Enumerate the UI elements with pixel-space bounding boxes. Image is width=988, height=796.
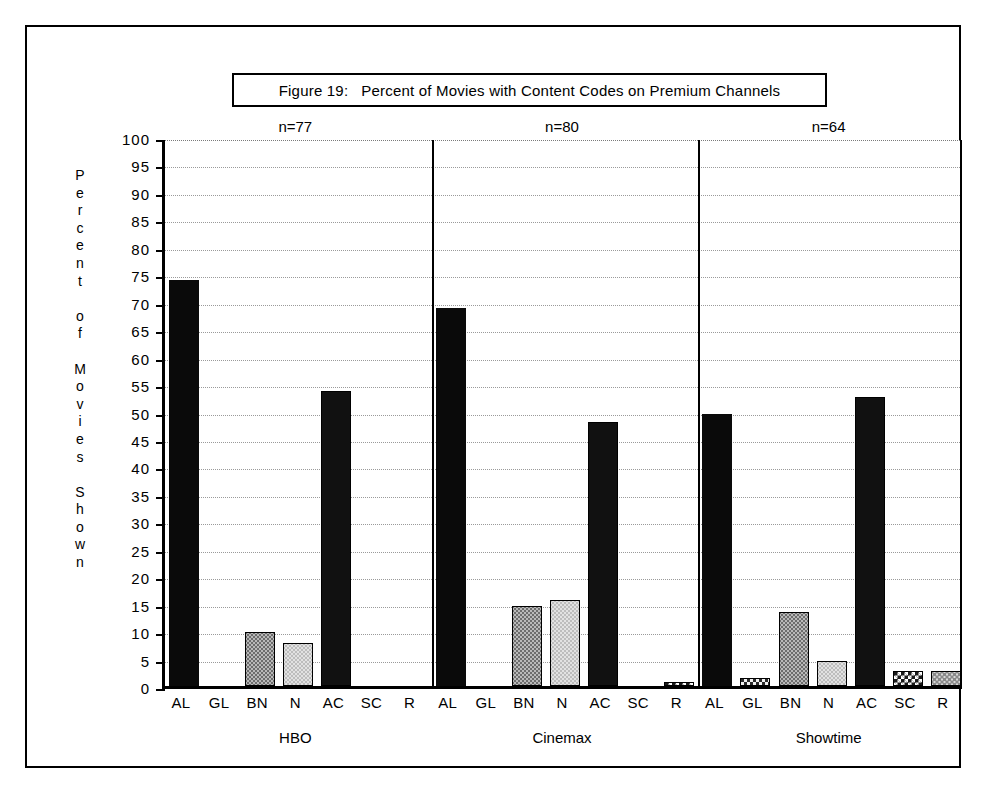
y-axis-tick bbox=[156, 332, 165, 334]
gridline bbox=[165, 360, 960, 361]
y-axis-title: Percent of Movies Shown bbox=[71, 167, 89, 572]
y-axis-tick-label: 45 bbox=[98, 434, 150, 449]
y-axis-tick-label: 50 bbox=[98, 407, 150, 422]
bar-showtime-ac bbox=[855, 397, 885, 686]
y-axis-tick-label: 25 bbox=[98, 544, 150, 559]
y-axis-title-letter: M bbox=[71, 361, 89, 379]
y-axis-tick-label: 90 bbox=[98, 187, 150, 202]
y-axis-tick-label: 10 bbox=[98, 626, 150, 641]
group-divider bbox=[698, 140, 700, 686]
gridline bbox=[165, 222, 960, 223]
y-axis-title-letter: t bbox=[71, 273, 89, 291]
y-axis-tick bbox=[156, 552, 165, 554]
y-axis-tick-label: 5 bbox=[98, 654, 150, 669]
y-axis-tick-label: 40 bbox=[98, 461, 150, 476]
y-axis-tick-labels: 1009590858075706560555045403530252015105… bbox=[98, 140, 150, 689]
group-label-cinemax: Cinemax bbox=[429, 730, 696, 745]
y-axis-tick-label: 60 bbox=[98, 352, 150, 367]
y-axis-tick bbox=[156, 415, 165, 417]
y-axis-title-letter: e bbox=[71, 185, 89, 203]
gridline bbox=[165, 497, 960, 498]
bar-showtime-gl bbox=[740, 678, 770, 686]
bar-showtime-n bbox=[817, 661, 847, 686]
gridline bbox=[165, 167, 960, 168]
plot-area bbox=[162, 140, 962, 689]
y-axis-title-letter: r bbox=[71, 202, 89, 220]
gridline bbox=[165, 305, 960, 306]
figure-frame: Figure 19: Percent of Movies with Conten… bbox=[25, 25, 961, 768]
gridline bbox=[165, 387, 960, 388]
y-axis-title-letter bbox=[71, 466, 89, 484]
y-axis-tick-label: 100 bbox=[98, 132, 150, 147]
y-axis-title-letter: o bbox=[71, 378, 89, 396]
y-axis-tick bbox=[156, 250, 165, 252]
bar-hbo-al bbox=[169, 280, 199, 686]
y-axis-tick-label: 65 bbox=[98, 324, 150, 339]
figure-title-box: Figure 19: Percent of Movies with Conten… bbox=[232, 73, 827, 107]
y-axis-tick bbox=[156, 222, 165, 224]
gridline bbox=[165, 140, 960, 141]
bar-showtime-r bbox=[931, 671, 961, 686]
sample-size-cinemax: n=80 bbox=[429, 119, 696, 134]
y-axis-tick bbox=[156, 387, 165, 389]
y-axis-tick bbox=[156, 579, 165, 581]
y-axis-tick-label: 15 bbox=[98, 599, 150, 614]
y-axis-tick bbox=[156, 360, 165, 362]
x-axis-tick-label: R bbox=[918, 695, 968, 710]
bar-cinemax-bn bbox=[512, 606, 542, 686]
y-axis-tick bbox=[156, 195, 165, 197]
gridline bbox=[165, 442, 960, 443]
y-axis-tick-label: 20 bbox=[98, 571, 150, 586]
bar-hbo-ac bbox=[321, 391, 351, 686]
sample-size-hbo: n=77 bbox=[162, 119, 429, 134]
y-axis-tick-label: 35 bbox=[98, 489, 150, 504]
group-label-hbo: HBO bbox=[162, 730, 429, 745]
y-axis-tick bbox=[156, 607, 165, 609]
y-axis-tick bbox=[156, 689, 165, 691]
y-axis-tick-label: 85 bbox=[98, 214, 150, 229]
y-axis-tick-label: 75 bbox=[98, 269, 150, 284]
y-axis-title-letter: P bbox=[71, 167, 89, 185]
y-axis-title-letter: c bbox=[71, 220, 89, 238]
y-axis-title-letter: e bbox=[71, 431, 89, 449]
y-axis-title-letter: n bbox=[71, 554, 89, 572]
y-axis-title-letter: h bbox=[71, 501, 89, 519]
y-axis-tick-label: 30 bbox=[98, 516, 150, 531]
gridline bbox=[165, 469, 960, 470]
bar-showtime-al bbox=[702, 414, 732, 686]
y-axis-tick bbox=[156, 662, 165, 664]
y-axis-title-letter: f bbox=[71, 325, 89, 343]
gridline bbox=[165, 195, 960, 196]
y-axis-tick-label: 0 bbox=[98, 681, 150, 696]
gridline bbox=[165, 415, 960, 416]
y-axis-tick bbox=[156, 524, 165, 526]
group-divider bbox=[432, 140, 434, 686]
y-axis-tick bbox=[156, 497, 165, 499]
gridline bbox=[165, 579, 960, 580]
y-axis-title-letter: n bbox=[71, 255, 89, 273]
y-axis-tick bbox=[156, 469, 165, 471]
y-axis-tick-label: 80 bbox=[98, 242, 150, 257]
y-axis-tick-label: 70 bbox=[98, 297, 150, 312]
bar-hbo-bn bbox=[245, 632, 275, 686]
sample-size-showtime: n=64 bbox=[695, 119, 962, 134]
y-axis-tick bbox=[156, 634, 165, 636]
y-axis-title-letter: S bbox=[71, 484, 89, 502]
y-axis-tick-label: 95 bbox=[98, 159, 150, 174]
y-axis-title-letter bbox=[71, 290, 89, 308]
figure-title: Figure 19: Percent of Movies with Conten… bbox=[279, 82, 781, 99]
gridline bbox=[165, 552, 960, 553]
y-axis-tick bbox=[156, 140, 165, 142]
bar-showtime-sc bbox=[893, 671, 923, 686]
y-axis-title-letter: o bbox=[71, 308, 89, 326]
y-axis-title-letter: w bbox=[71, 536, 89, 554]
bar-showtime-bn bbox=[779, 612, 809, 686]
y-axis-tick bbox=[156, 305, 165, 307]
gridline bbox=[165, 524, 960, 525]
y-axis-tick bbox=[156, 167, 165, 169]
group-label-showtime: Showtime bbox=[695, 730, 962, 745]
y-axis-tick-label: 55 bbox=[98, 379, 150, 394]
y-axis-title-letter: e bbox=[71, 237, 89, 255]
bar-cinemax-ac bbox=[588, 422, 618, 686]
bar-hbo-n bbox=[283, 643, 313, 686]
